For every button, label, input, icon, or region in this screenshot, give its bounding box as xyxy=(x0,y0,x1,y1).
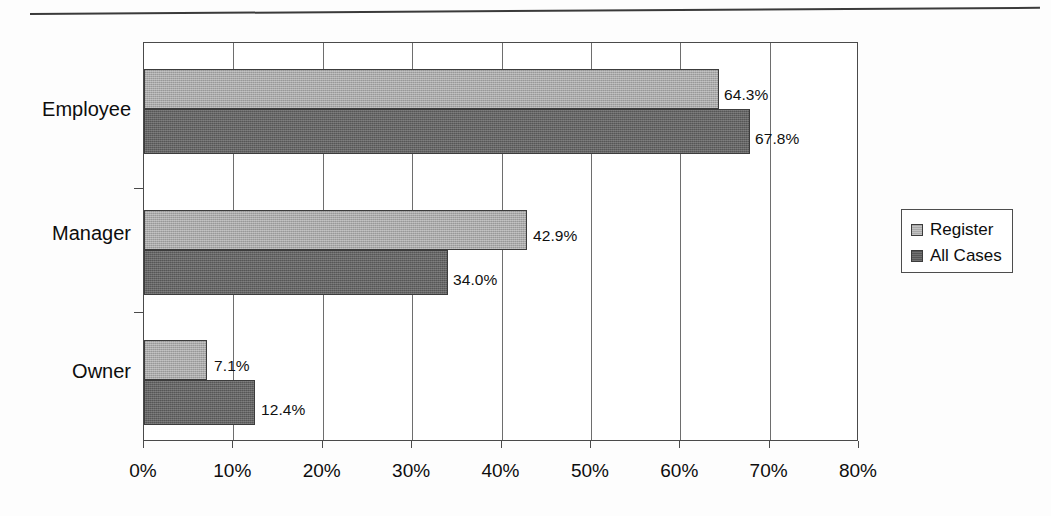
bar-manager-all-cases[interactable] xyxy=(144,250,448,295)
category-label-owner: Owner xyxy=(0,360,131,383)
data-label-owner-register: 7.1% xyxy=(214,357,250,375)
bar-employee-register[interactable] xyxy=(144,69,719,109)
xtick-label-80: 80% xyxy=(839,460,877,482)
chart-legend: Register All Cases xyxy=(901,209,1013,273)
xtick-40 xyxy=(501,441,502,448)
data-label-employee-all-cases: 67.8% xyxy=(755,130,799,148)
xtick-label-70: 70% xyxy=(750,460,788,482)
xtick-label-50: 50% xyxy=(571,460,609,482)
xtick-50 xyxy=(590,441,591,448)
xtick-label-40: 40% xyxy=(481,460,519,482)
bar-owner-register[interactable] xyxy=(144,340,207,380)
legend-label-all-cases: All Cases xyxy=(930,246,1002,266)
xtick-label-20: 20% xyxy=(303,460,341,482)
bar-manager-register[interactable] xyxy=(144,210,527,250)
category-tick-1 xyxy=(134,188,143,189)
xtick-label-60: 60% xyxy=(660,460,698,482)
category-tick-2 xyxy=(134,312,143,313)
xtick-label-10: 10% xyxy=(213,460,251,482)
xtick-70 xyxy=(769,441,770,448)
data-label-manager-register: 42.9% xyxy=(533,227,577,245)
xtick-60 xyxy=(679,441,680,448)
bar-owner-all-cases[interactable] xyxy=(144,380,255,425)
data-label-employee-register: 64.3% xyxy=(724,86,768,104)
gridline-70 xyxy=(770,43,771,440)
xtick-label-30: 30% xyxy=(392,460,430,482)
legend-item-all-cases[interactable]: All Cases xyxy=(911,246,1002,266)
xtick-30 xyxy=(411,441,412,448)
bar-employee-all-cases[interactable] xyxy=(144,109,750,154)
category-label-manager: Manager xyxy=(0,222,131,245)
legend-item-register[interactable]: Register xyxy=(911,220,993,240)
category-label-employee: Employee xyxy=(0,98,131,121)
xtick-0 xyxy=(143,441,144,448)
xtick-label-0: 0% xyxy=(129,460,156,482)
chart-page: Employee Manager Owner 64.3% 67.8% 42.9%… xyxy=(0,0,1051,516)
xtick-10 xyxy=(232,441,233,448)
xtick-80 xyxy=(858,441,859,448)
legend-swatch-register-icon xyxy=(911,224,923,236)
data-label-owner-all-cases: 12.4% xyxy=(261,401,305,419)
legend-swatch-all-cases-icon xyxy=(911,250,923,262)
data-label-manager-all-cases: 34.0% xyxy=(453,271,497,289)
xtick-20 xyxy=(322,441,323,448)
page-top-rule xyxy=(30,7,1040,15)
legend-label-register: Register xyxy=(930,220,993,240)
